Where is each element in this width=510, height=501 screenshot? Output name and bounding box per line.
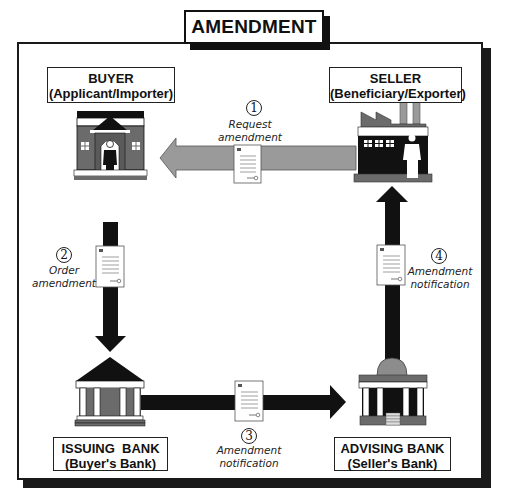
issuing-bank-name: ISSUING BANK [54, 441, 167, 456]
factory-with-worker-icon [354, 102, 432, 182]
seller-label: SELLER (Beneficiary/Exporter) [329, 67, 462, 103]
step-3-label: Amendment notification [210, 444, 288, 470]
step-2-label: Order amendment [30, 264, 98, 290]
step-2-label-line1: Order [30, 264, 98, 277]
buyer-role: (Applicant/Importer) [48, 86, 174, 101]
step-1-label: Request amendment [195, 118, 305, 144]
advising-bank-label: ADVISING BANK (Seller's Bank) [334, 437, 451, 471]
document-icon [234, 145, 261, 183]
step-2-number: 2 [56, 247, 72, 263]
seller-name: SELLER [330, 71, 461, 86]
step-1-number: 1 [246, 100, 262, 116]
bank-building-icon [75, 357, 145, 426]
step-2-label-line2: amendment [30, 277, 98, 290]
advising-bank-role: (Seller's Bank) [335, 456, 450, 471]
seller-role: (Beneficiary/Exporter) [330, 86, 461, 101]
buyer-name: BUYER [48, 71, 174, 86]
issuing-bank-role: (Buyer's Bank) [54, 456, 167, 471]
issuing-bank-label: ISSUING BANK (Buyer's Bank) [53, 437, 168, 471]
step-3-label-line1: Amendment [210, 444, 288, 457]
advising-bank-name: ADVISING BANK [335, 441, 450, 456]
step-4-number: 4 [431, 248, 447, 264]
document-icon [377, 245, 405, 285]
step-4-label-line1: Amendment [402, 265, 478, 278]
step-4-label: Amendment notification [402, 265, 478, 291]
buyer-label: BUYER (Applicant/Importer) [47, 67, 175, 103]
domed-bank-building-icon [359, 358, 427, 425]
document-icon [96, 246, 124, 287]
document-icon [235, 381, 263, 421]
step-4-label-line2: notification [402, 278, 478, 291]
step-3-label-line2: notification [210, 457, 288, 470]
step-3-number: 3 [241, 428, 257, 444]
house-with-person-icon [74, 111, 147, 180]
